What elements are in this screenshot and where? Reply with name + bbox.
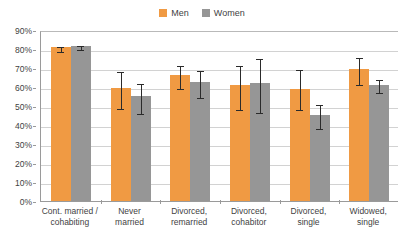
x-axis-category-label: Nevermarried xyxy=(100,206,160,228)
y-axis-tick-label: 20% xyxy=(15,160,32,169)
x-axis-category-label-line: Never xyxy=(100,206,160,217)
error-bar-cap-lower-men-3 xyxy=(236,110,243,111)
error-bar-stem-women-4 xyxy=(320,105,321,129)
error-bar-cap-lower-men-5 xyxy=(356,85,363,86)
bar-women-5 xyxy=(369,85,389,201)
x-axis-category-label-line: remarried xyxy=(159,217,219,228)
x-axis-tick-mark xyxy=(160,200,161,204)
x-axis-tick-mark xyxy=(280,200,281,204)
error-bar-stem-women-1 xyxy=(141,84,142,114)
bar-men-0 xyxy=(51,47,71,201)
plot-area xyxy=(40,31,398,202)
y-axis-tick-label: 30% xyxy=(15,141,32,150)
error-bar-stem-men-2 xyxy=(180,66,181,89)
x-axis-category-label-line: married xyxy=(100,217,160,228)
y-axis-tick-mark xyxy=(33,126,36,127)
x-axis-category-label-line: Divorced, xyxy=(159,206,219,217)
gridline xyxy=(41,89,398,90)
y-axis-tick-mark xyxy=(33,69,36,70)
error-bar-cap-upper-women-0 xyxy=(77,46,84,47)
y-axis-tick-label: 90% xyxy=(15,27,32,36)
y-axis-tick-label: 50% xyxy=(15,103,32,112)
error-bar-cap-lower-women-5 xyxy=(376,93,383,94)
error-bar-stem-men-4 xyxy=(300,70,301,110)
error-bar-cap-upper-men-1 xyxy=(117,72,124,73)
legend-label: Women xyxy=(214,9,245,18)
error-bar-cap-lower-men-2 xyxy=(177,89,184,90)
gridline xyxy=(41,165,398,166)
y-axis-tick-label: 40% xyxy=(15,122,32,131)
legend-entry-women[interactable]: Women xyxy=(202,9,245,18)
error-bar-cap-upper-men-4 xyxy=(296,70,303,71)
error-bar-cap-upper-men-0 xyxy=(57,47,64,48)
gridline xyxy=(41,108,398,109)
legend-label: Men xyxy=(171,9,189,18)
x-axis-tick-mark xyxy=(339,200,340,204)
gridline xyxy=(41,70,398,71)
error-bar-stem-women-5 xyxy=(379,80,380,93)
y-axis-tick-mark xyxy=(33,88,36,89)
x-axis-category-label-line: Divorced, xyxy=(219,206,279,217)
x-axis-category-label-line: cohabiting xyxy=(40,217,100,228)
gridline xyxy=(41,146,398,147)
error-bar-cap-lower-women-0 xyxy=(77,50,84,51)
x-axis: Cont. married /cohabitingNevermarriedDiv… xyxy=(40,206,398,242)
error-bar-cap-lower-men-0 xyxy=(57,52,64,53)
x-axis-category-label: Cont. married /cohabiting xyxy=(40,206,100,228)
x-axis-category-label-line: Cont. married / xyxy=(40,206,100,217)
x-axis-category-label-line: cohabitor xyxy=(219,217,279,228)
error-bar-cap-upper-women-2 xyxy=(197,71,204,72)
gridline xyxy=(41,51,398,52)
y-axis-tick-label: 70% xyxy=(15,65,32,74)
error-bar-cap-lower-women-2 xyxy=(197,98,204,99)
y-axis-tick-mark xyxy=(33,164,36,165)
y-axis-tick-label: 10% xyxy=(15,179,32,188)
error-bar-stem-women-3 xyxy=(260,59,261,114)
error-bar-cap-lower-women-3 xyxy=(256,113,263,114)
y-axis-tick-mark xyxy=(33,202,36,203)
error-bar-cap-upper-men-2 xyxy=(177,66,184,67)
error-bar-cap-lower-men-4 xyxy=(296,110,303,111)
legend-entry-men[interactable]: Men xyxy=(159,9,189,18)
legend-swatch-icon xyxy=(159,9,167,17)
bar-chart: MenWomen 0%10%20%30%40%50%60%70%80%90% C… xyxy=(0,0,404,244)
error-bar-stem-women-2 xyxy=(200,71,201,98)
chart-legend: MenWomen xyxy=(0,6,404,20)
bar-women-0 xyxy=(71,46,91,201)
x-axis-category-label-line: Widowed, xyxy=(338,206,398,217)
x-axis-category-label: Divorced,remarried xyxy=(159,206,219,228)
error-bar-stem-men-1 xyxy=(121,72,122,109)
error-bar-cap-upper-men-3 xyxy=(236,66,243,67)
bar-men-2 xyxy=(170,75,190,201)
x-axis-category-label: Widowed,single xyxy=(338,206,398,228)
y-axis-tick-label: 60% xyxy=(15,84,32,93)
y-axis: 0%10%20%30%40%50%60%70%80%90% xyxy=(0,31,36,202)
error-bar-cap-lower-men-1 xyxy=(117,109,124,110)
y-axis-tick-mark xyxy=(33,183,36,184)
error-bar-stem-men-5 xyxy=(359,58,360,86)
x-axis-category-label: Divorced,cohabitor xyxy=(219,206,279,228)
y-axis-tick-mark xyxy=(33,50,36,51)
error-bar-cap-upper-women-3 xyxy=(256,59,263,60)
y-axis-tick-mark xyxy=(33,145,36,146)
y-axis-tick-mark xyxy=(33,107,36,108)
bar-women-2 xyxy=(190,82,210,201)
error-bar-cap-upper-men-5 xyxy=(356,58,363,59)
error-bar-cap-lower-women-4 xyxy=(316,129,323,130)
bar-men-5 xyxy=(349,69,369,201)
x-axis-category-label-line: single xyxy=(279,217,339,228)
error-bar-stem-men-3 xyxy=(240,66,241,110)
legend-swatch-icon xyxy=(202,9,210,17)
error-bar-cap-upper-women-4 xyxy=(316,105,323,106)
y-axis-tick-label: 0% xyxy=(20,198,32,207)
y-axis-tick-mark xyxy=(33,31,36,32)
x-axis-category-label-line: single xyxy=(338,217,398,228)
x-axis-tick-mark xyxy=(220,200,221,204)
error-bar-cap-lower-women-1 xyxy=(137,114,144,115)
x-axis-tick-mark xyxy=(101,200,102,204)
gridline xyxy=(41,127,398,128)
error-bar-cap-upper-women-5 xyxy=(376,80,383,81)
x-axis-category-label: Divorced,single xyxy=(279,206,339,228)
y-axis-tick-label: 80% xyxy=(15,46,32,55)
gridline xyxy=(41,184,398,185)
